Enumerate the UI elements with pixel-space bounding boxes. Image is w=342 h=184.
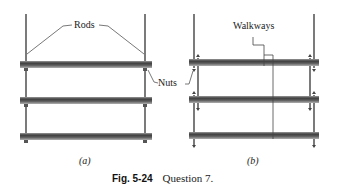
diagram-canvas	[0, 0, 342, 184]
caption-text: Question 7.	[163, 172, 214, 184]
walkway-beam-2	[20, 97, 152, 104]
walkway-beam-3	[20, 133, 152, 140]
panel-a	[20, 14, 158, 143]
panel-b	[185, 14, 319, 148]
walkway-beam-b3	[189, 132, 319, 139]
nuts-leader-b	[185, 71, 193, 84]
panel-b-label: (b)	[247, 155, 259, 166]
rods-leader-left	[27, 25, 72, 54]
nuts	[24, 68, 147, 143]
walkway-beam-1	[20, 61, 152, 68]
figure-5-24: Rods Nuts Walkways (a) (b) Fig. 5-24 Que…	[0, 0, 342, 184]
rods-leader-right	[99, 25, 144, 54]
figure-caption: Fig. 5-24 Question 7.	[112, 168, 213, 184]
nuts-leader-a	[148, 70, 158, 83]
nuts-label: Nuts	[158, 77, 177, 88]
rods-label: Rods	[74, 19, 95, 30]
walkway-beam-b1	[189, 59, 319, 66]
panel-a-label: (a)	[79, 155, 91, 166]
walkway-beam-b2	[189, 96, 319, 103]
caption-number: Fig. 5-24	[112, 173, 153, 184]
walkways-label: Walkways	[233, 20, 274, 31]
